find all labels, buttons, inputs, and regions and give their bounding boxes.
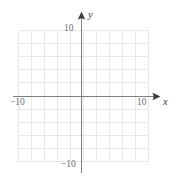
x-axis-max-tick-label: 10	[137, 98, 147, 108]
x-axis-name-label: x	[163, 97, 168, 108]
y-axis-max-tick-label: 10	[64, 24, 74, 34]
y-axis-min-tick-label: −10	[61, 160, 76, 170]
y-axis-name-label: y	[88, 10, 93, 21]
coordinate-plane-figure: −10 10 10 −10 x y	[0, 0, 178, 179]
x-axis-min-tick-label: −10	[10, 98, 25, 108]
coordinate-plane-canvas	[0, 0, 178, 179]
